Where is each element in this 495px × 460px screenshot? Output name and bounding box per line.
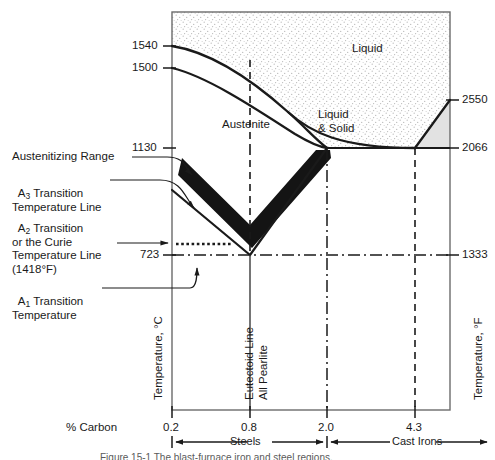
callout-a1-transition: A1 TransitionTemperature (12, 281, 83, 322)
a2-line2: or the Curie (12, 236, 72, 248)
liquid-and-solid-line1: Liquid (318, 108, 349, 120)
a2-text: Transition (30, 222, 83, 234)
a1-text: Transition (30, 295, 83, 307)
region-label-liquid: Liquid (352, 42, 383, 56)
a2-line3: Temperature Line (12, 249, 102, 261)
tick-label-2550: 2550 (462, 93, 488, 107)
callout-a2-curie: A2 Transitionor the CurieTemperature Lin… (12, 208, 102, 276)
tick-label-1500: 1500 (132, 61, 158, 75)
tick-label-c-2-0: 2.0 (318, 421, 334, 435)
a1-transition-leader (102, 268, 197, 288)
range-label-steels: Steels (230, 435, 261, 448)
tick-label-c-0-2: 0.2 (163, 421, 179, 435)
range-label-cast-irons: Cast Irons (392, 435, 442, 448)
tick-label-2066: 2066 (462, 141, 488, 155)
lower-white-region (327, 148, 450, 410)
a1-line2: Temperature (12, 309, 77, 321)
figure-caption: Figure 15-1 The blast-furnace iron and s… (100, 452, 420, 460)
tick-label-1540: 1540 (132, 39, 158, 53)
region-label-liquid-and-solid: Liquid& Solid (318, 108, 354, 135)
callout-austenitizing-range: Austenitizing Range (12, 150, 114, 164)
x-axis-label: % Carbon (66, 421, 117, 435)
tick-label-1333: 1333 (462, 248, 488, 262)
right-axis-label: Temperature, °F (472, 317, 486, 400)
tick-label-c-0-8: 0.8 (241, 421, 257, 435)
region-label-austenite: Austenite (222, 118, 270, 132)
a2-line4: (1418°F) (12, 263, 57, 275)
tick-label-723: 723 (140, 248, 159, 262)
left-axis-label: Temperature, °C (152, 316, 166, 400)
all-pearlite-label: All Pearlite (257, 345, 271, 400)
tick-label-1130: 1130 (132, 141, 157, 155)
tick-label-c-4-3: 4.3 (406, 421, 422, 435)
eutectoid-line-label: Eutectoid Line (243, 327, 257, 400)
liquid-and-solid-line2: & Solid (318, 122, 354, 134)
a3-text: Transition (30, 187, 83, 199)
